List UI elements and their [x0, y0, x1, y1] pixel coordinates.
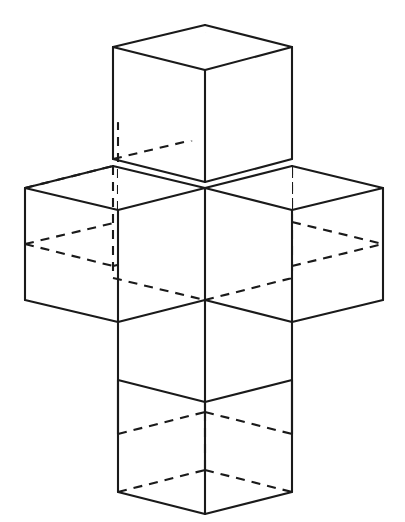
face-middle-front-left	[31, 10, 118, 144]
polycube-isometric-drawing	[0, 0, 405, 522]
figure-root	[0, 0, 405, 522]
face-bottom-cube-right	[205, 144, 292, 278]
